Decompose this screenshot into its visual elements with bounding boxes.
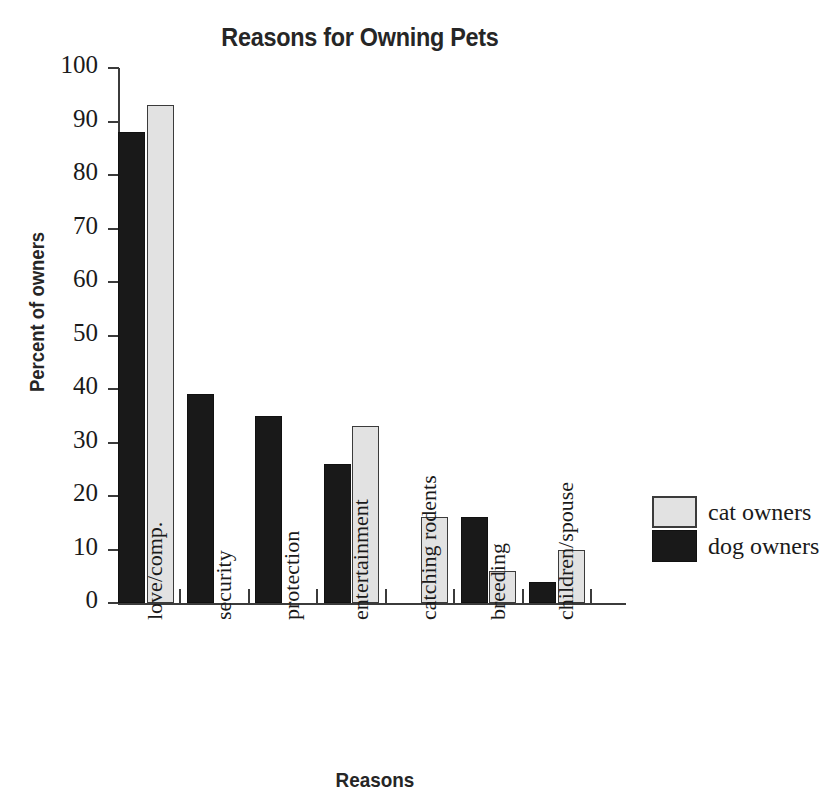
bar-dog-0 — [118, 132, 145, 603]
legend-label-dog: dog owners — [708, 533, 819, 560]
x-category-label-0: love/comp. — [142, 522, 168, 620]
x-category-label-1: security — [211, 550, 237, 620]
x-category-label-4: catching rodents — [416, 475, 442, 620]
x-category-label-6: children/spouse — [553, 482, 579, 620]
y-tick-label-100: 100 — [18, 51, 98, 79]
bar-dog-5 — [461, 517, 488, 603]
y-tick-label-60: 60 — [18, 265, 98, 293]
x-category-label-3: entertainment — [348, 499, 374, 620]
bar-dog-1 — [187, 394, 214, 603]
bar-chart: Reasons for Owning Pets Percent of owner… — [0, 0, 825, 812]
y-tick-label-0: 0 — [18, 586, 98, 614]
y-tick-label-90: 90 — [18, 105, 98, 133]
bar-dog-2 — [255, 416, 282, 603]
y-tick-label-80: 80 — [18, 158, 98, 186]
x-category-label-2: protection — [279, 531, 305, 620]
y-tick-label-50: 50 — [18, 319, 98, 347]
y-tick-label-40: 40 — [18, 372, 98, 400]
legend-item-dog: dog owners — [652, 529, 819, 563]
legend-swatch-cat — [652, 496, 697, 528]
x-category-label-5: breeding — [485, 543, 511, 620]
legend-item-cat: cat owners — [652, 495, 819, 529]
bar-dog-3 — [324, 464, 351, 603]
y-tick-label-70: 70 — [18, 212, 98, 240]
bar-dog-6 — [529, 582, 556, 603]
y-tick-label-30: 30 — [18, 426, 98, 454]
y-tick-label-10: 10 — [18, 533, 98, 561]
y-tick-label-20: 20 — [18, 479, 98, 507]
chart-legend: cat ownersdog owners — [652, 495, 819, 563]
chart-title: Reasons for Owning Pets — [36, 22, 684, 53]
legend-swatch-dog — [652, 530, 697, 562]
x-axis-title: Reasons — [263, 768, 488, 792]
legend-label-cat: cat owners — [708, 499, 811, 526]
